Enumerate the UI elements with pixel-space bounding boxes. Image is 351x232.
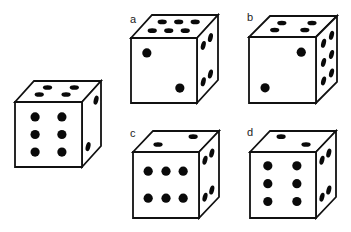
option-die-c[interactable] [133, 131, 219, 218]
front-pip [179, 194, 188, 203]
top-pip [301, 142, 310, 147]
top-pip [307, 21, 316, 26]
front-pip [30, 112, 39, 121]
front-face [15, 102, 82, 167]
top-pip [300, 28, 309, 33]
option-label-c: c [130, 128, 136, 139]
top-pip [35, 92, 44, 97]
front-pip [161, 194, 170, 203]
top-pip [189, 134, 198, 139]
top-pip [174, 20, 183, 25]
front-pip [142, 48, 151, 57]
top-pip [153, 142, 162, 147]
top-pip [158, 20, 167, 25]
top-pip [277, 21, 286, 26]
top-pip [43, 85, 52, 90]
front-face [133, 152, 199, 218]
front-face [250, 152, 316, 218]
front-pip [292, 197, 301, 206]
option-label-b: b [247, 12, 253, 23]
front-face [249, 37, 316, 103]
front-pip [179, 167, 188, 176]
front-pip [30, 130, 39, 139]
front-pip [161, 167, 170, 176]
top-pip [270, 28, 279, 33]
top-pip [191, 20, 200, 25]
front-pip [144, 167, 153, 176]
top-pip [181, 28, 190, 33]
top-pip [70, 85, 79, 90]
front-pip [297, 48, 306, 57]
front-pip [57, 130, 66, 139]
option-die-b[interactable] [249, 16, 337, 103]
reference-die [15, 81, 101, 167]
top-pip [61, 92, 70, 97]
top-pip [164, 28, 173, 33]
option-label-a: a [130, 14, 136, 25]
front-pip [292, 161, 301, 170]
front-pip [260, 83, 269, 92]
option-label-d: d [247, 127, 253, 138]
top-pip [148, 28, 157, 33]
front-pip [57, 112, 66, 121]
front-pip [263, 161, 272, 170]
option-die-d[interactable] [250, 131, 336, 218]
front-pip [57, 147, 66, 156]
front-pip [175, 83, 184, 92]
front-pip [292, 179, 301, 188]
front-pip [144, 194, 153, 203]
front-pip [263, 179, 272, 188]
front-pip [263, 197, 272, 206]
front-pip [30, 147, 39, 156]
top-pip [277, 134, 286, 139]
front-face [131, 38, 197, 103]
option-die-a[interactable] [131, 15, 218, 103]
dice-puzzle-canvas [0, 0, 351, 232]
